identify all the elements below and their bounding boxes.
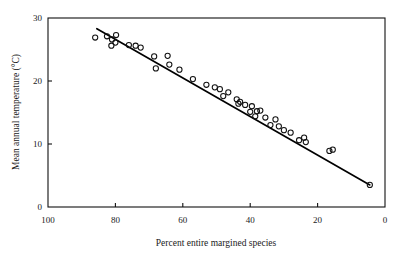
data-point [226,90,231,95]
data-point [152,54,157,59]
x-tick-label: 80 [111,215,121,225]
y-axis-title: Mean annual temperature (°C) [11,54,22,170]
scatter-plot: 100806040200 0102030 Percent entire marg… [0,0,408,261]
data-point [253,114,258,119]
x-tick-label: 0 [383,215,388,225]
data-point [113,40,118,45]
data-point [263,115,268,120]
data-point [165,53,170,58]
data-point [273,117,278,122]
data-point [217,87,222,92]
data-point [190,77,195,82]
x-axis-title: Percent entire margined species [156,238,277,248]
data-point [93,35,98,40]
data-point [167,62,172,67]
figure-container: 100806040200 0102030 Percent entire marg… [0,0,408,261]
data-point [204,82,209,87]
data-point [248,109,253,114]
x-tick-label: 60 [178,215,188,225]
data-point [138,45,143,50]
data-point [281,128,286,133]
plot-frame [48,18,385,207]
y-tick-label: 10 [33,139,43,149]
data-point [296,138,301,143]
data-point [153,66,158,71]
data-point [327,148,332,153]
data-point [243,102,248,107]
regression-line [97,29,370,185]
data-point [177,67,182,72]
data-point [276,124,281,129]
data-point [288,130,293,135]
data-point [113,32,118,37]
y-tick-labels: 0102030 [33,13,43,212]
x-tick-label: 20 [313,215,323,225]
y-tick-label: 30 [33,13,43,23]
data-point [249,104,254,109]
y-axis-ticks [48,81,52,144]
data-point [221,94,226,99]
data-point [133,43,138,48]
data-points [93,32,373,187]
x-axis-ticks [115,203,317,207]
x-tick-label: 40 [246,215,256,225]
data-point [258,108,263,113]
y-tick-label: 0 [38,202,43,212]
x-tick-labels: 100806040200 [41,215,388,225]
y-tick-label: 20 [33,76,43,86]
x-tick-label: 100 [41,215,55,225]
data-point [212,85,217,90]
data-point [330,147,335,152]
data-point [268,123,273,128]
